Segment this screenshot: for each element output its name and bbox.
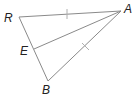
label-r: R	[4, 11, 13, 25]
tick-mark-ab	[82, 43, 89, 50]
label-e: E	[20, 44, 29, 58]
segment-ae	[34, 11, 121, 49]
triangle-diagram: R A E B	[0, 0, 137, 105]
label-a: A	[123, 2, 132, 16]
segment-ra	[19, 11, 121, 17]
label-b: B	[42, 83, 50, 97]
